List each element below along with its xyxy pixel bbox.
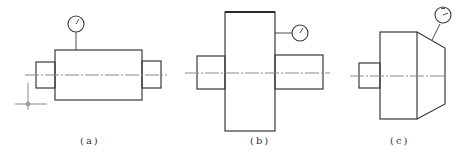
subfigure-label-a: (a)	[80, 135, 100, 146]
right-shaft-b	[275, 55, 323, 89]
subfigure-c	[350, 7, 451, 119]
subfigure-b	[185, 12, 330, 131]
datum-crosshair-icon	[15, 83, 47, 110]
subfigure-label-c: (c)	[390, 135, 409, 146]
subfigure-a	[15, 16, 167, 110]
disc-b	[225, 12, 275, 131]
machining-figure	[0, 0, 456, 158]
subfigure-label-b: (b)	[250, 135, 270, 146]
indicator-stem-c	[432, 24, 440, 40]
